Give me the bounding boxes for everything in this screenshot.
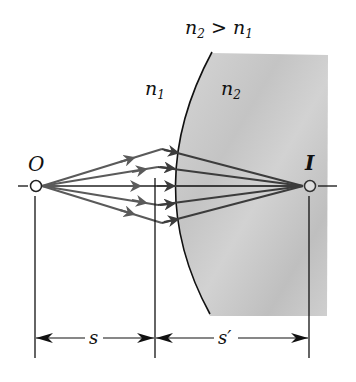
condition-label: n2 > n1 xyxy=(185,16,253,41)
object-point xyxy=(31,181,42,192)
medium1-label: n1 xyxy=(145,77,165,102)
object-label: O xyxy=(28,152,44,176)
dimension-s-prime xyxy=(156,333,308,343)
refraction-diagram: n2 > n1 n1 n2 O I s s′ xyxy=(0,0,356,382)
incident-rays xyxy=(42,149,162,223)
object-distance-label: s xyxy=(89,327,98,348)
image-point xyxy=(305,181,316,192)
image-label: I xyxy=(304,151,315,175)
image-distance-label: s′ xyxy=(218,327,231,348)
